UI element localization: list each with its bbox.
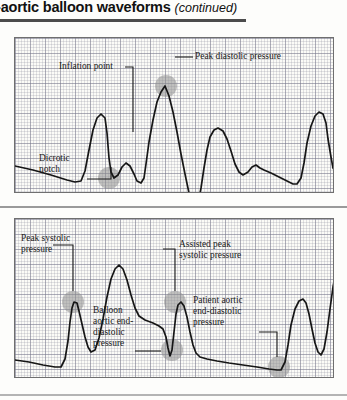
page-title-continued: (continued): [175, 1, 238, 15]
label-assisted-peak-line1: Assisted peak: [179, 239, 231, 250]
label-dicrotic-notch-line1: Dicrotic: [39, 153, 70, 164]
label-balloon-aed-line1: Balloon: [93, 305, 123, 316]
waveform-panel-unassisted: Inflation point Peak diastolic pressure …: [14, 37, 334, 193]
waveform-panel-assisted: Peak systolic pressure Assisted peak sys…: [14, 218, 334, 378]
label-peak-diastolic-pressure: Peak diastolic pressure: [195, 51, 281, 62]
header-divider: [0, 19, 246, 22]
label-peak-systolic-line2: pressure: [21, 244, 52, 255]
label-patient-aed-line2: end-diastolic: [193, 306, 241, 317]
panel-divider: [0, 206, 347, 208]
label-assisted-peak-line2: systolic pressure: [179, 250, 241, 261]
page-title-main: -aortic balloon waveforms: [0, 0, 171, 15]
annotation-leaders-top: Inflation point Peak diastolic pressure …: [15, 38, 333, 192]
label-patient-aed-line1: Patient aortic: [193, 295, 243, 306]
label-balloon-aed-line2: aortic end-: [93, 316, 133, 327]
footer-divider: [0, 394, 347, 396]
label-peak-systolic-line1: Peak systolic: [21, 233, 70, 244]
label-patient-aed-line3: pressure: [193, 317, 224, 328]
label-balloon-aed-line3: diastolic: [93, 327, 125, 338]
page-title: -aortic balloon waveforms (continued): [0, 0, 237, 15]
label-balloon-aed-line4: pressure: [93, 338, 124, 349]
page-header: -aortic balloon waveforms (continued): [0, 0, 347, 28]
label-dicrotic-notch-line2: notch: [39, 164, 60, 175]
annotation-leaders-bottom: Peak systolic pressure Assisted peak sys…: [15, 219, 333, 377]
label-inflation-point: Inflation point: [59, 61, 113, 72]
